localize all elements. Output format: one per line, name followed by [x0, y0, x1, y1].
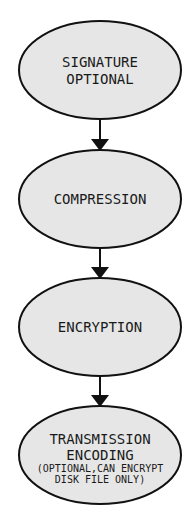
- svg-text:(OPTIONAL,CAN ENCRYPT: (OPTIONAL,CAN ENCRYPT: [37, 463, 163, 474]
- node-sublabel: DISK FILE ONLY): [55, 474, 145, 485]
- node-compression: COMPRESSION: [19, 150, 181, 248]
- node-label: TRANSMISSION: [49, 431, 150, 447]
- node-label: OPTIONAL: [66, 71, 133, 87]
- svg-text:ENCRYPTION: ENCRYPTION: [58, 319, 142, 335]
- svg-text:OPTIONAL: OPTIONAL: [66, 71, 133, 87]
- svg-text:TRANSMISSION: TRANSMISSION: [49, 431, 150, 447]
- node-signature: SIGNATURE OPTIONAL: [19, 21, 181, 119]
- node-label: COMPRESSION: [54, 191, 147, 207]
- arrow-encryption-to-transmission: [91, 376, 109, 407]
- flowchart: SIGNATURE OPTIONAL COMPRESSION ENCRYPTIO…: [0, 0, 193, 527]
- svg-text:COMPRESSION: COMPRESSION: [54, 191, 147, 207]
- svg-text:DISK FILE ONLY): DISK FILE ONLY): [55, 474, 145, 485]
- svg-text:ENCODING: ENCODING: [66, 447, 133, 463]
- node-sublabel: (OPTIONAL,CAN ENCRYPT: [37, 463, 163, 474]
- node-label: ENCODING: [66, 447, 133, 463]
- node-label: SIGNATURE: [62, 54, 138, 70]
- arrow-signature-to-compression: [91, 119, 109, 151]
- node-encryption: ENCRYPTION: [19, 278, 181, 376]
- arrow-compression-to-encryption: [91, 248, 109, 279]
- svg-text:SIGNATURE: SIGNATURE: [62, 54, 138, 70]
- node-transmission-encoding: TRANSMISSION ENCODING (OPTIONAL,CAN ENCR…: [19, 406, 181, 504]
- node-label: ENCRYPTION: [58, 319, 142, 335]
